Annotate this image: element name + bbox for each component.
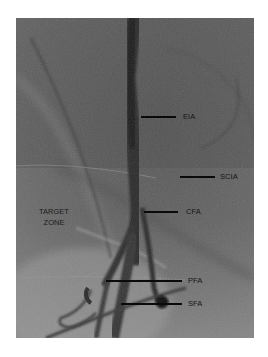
target-zone-line1: TARGET <box>34 206 74 217</box>
angiogram-graphic <box>16 18 254 338</box>
sfa-label: SFA <box>188 300 202 308</box>
sfa-pointer-line <box>121 303 182 305</box>
target-zone-label: TARGET ZONE <box>34 206 74 228</box>
cfa-pointer-line <box>144 211 178 213</box>
target-zone-line2: ZONE <box>34 217 74 228</box>
pfa-pointer-line <box>106 280 182 282</box>
eia-pointer-line <box>141 116 176 118</box>
cfa-label: CFA <box>186 208 201 216</box>
scia-label: SCIA <box>220 173 238 181</box>
eia-label: EIA <box>183 113 195 121</box>
angiogram-image: EIA SCIA CFA PFA SFA TARGET ZONE <box>16 18 254 338</box>
pfa-label: PFA <box>188 277 202 285</box>
scia-pointer-line <box>180 176 215 178</box>
